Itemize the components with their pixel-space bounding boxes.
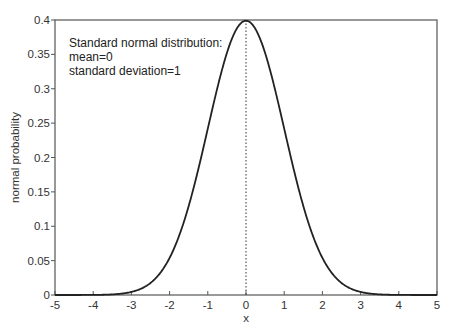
y-axis-label: normal probability [9, 112, 21, 203]
x-axis-label: x [243, 312, 249, 324]
y-axis: 00.050.10.150.20.250.30.350.4 [28, 14, 55, 301]
x-tick-label: 1 [281, 299, 287, 311]
x-tick-label: -3 [126, 299, 136, 311]
x-tick-label: 5 [434, 299, 440, 311]
annotation-mean: mean=0 [69, 50, 113, 64]
x-tick-label: -1 [203, 299, 213, 311]
x-tick-label: 4 [396, 299, 403, 311]
annotation-box: Standard normal distribution: mean=0 sta… [69, 36, 222, 78]
x-tick-label: -5 [50, 299, 60, 311]
y-tick-label: 0.1 [34, 220, 50, 232]
normal-distribution-chart: 00.050.10.150.20.250.30.350.4 -5-4-3-2-1… [0, 0, 456, 336]
annotation-title: Standard normal distribution: [69, 36, 222, 50]
y-tick-label: 0.05 [28, 255, 50, 267]
y-tick-label: 0.4 [34, 14, 51, 26]
x-tick-label: 0 [243, 299, 249, 311]
y-tick-label: 0.2 [34, 152, 50, 164]
y-tick-label: 0.3 [34, 83, 50, 95]
x-tick-label: -4 [88, 299, 99, 311]
x-tick-label: -2 [164, 299, 174, 311]
y-tick-label: 0.35 [28, 48, 50, 60]
y-tick-label: 0.15 [28, 186, 50, 198]
x-tick-label: 3 [357, 299, 363, 311]
x-tick-label: 2 [319, 299, 325, 311]
annotation-sd: standard deviation=1 [69, 64, 181, 78]
y-tick-label: 0.25 [28, 117, 50, 129]
